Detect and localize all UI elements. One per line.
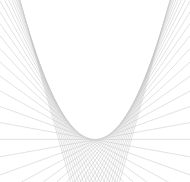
envelope-canvas [0,0,190,182]
parabola-envelope-figure [0,0,190,182]
